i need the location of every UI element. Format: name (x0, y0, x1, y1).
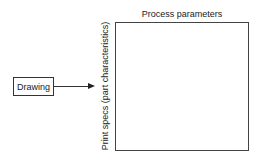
process-parameters-label: Process parameters (115, 9, 249, 19)
arrow-connector (53, 86, 93, 87)
matrix-box (115, 22, 249, 151)
drawing-label: Drawing (17, 82, 50, 92)
drawing-box: Drawing (13, 77, 54, 96)
print-specs-label: Print specs (part characteristics) (100, 22, 110, 151)
arrow-head-icon (88, 83, 95, 89)
